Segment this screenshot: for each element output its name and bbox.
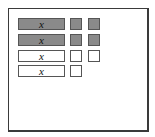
x-tile-plain: x bbox=[18, 65, 65, 77]
x-tile-shaded: x bbox=[18, 34, 65, 46]
unit-tile-shaded bbox=[88, 18, 100, 30]
x-tile-plain: x bbox=[18, 50, 65, 62]
unit-tile-shaded bbox=[70, 18, 82, 30]
x-tile-label: x bbox=[39, 51, 44, 62]
x-tile-label: x bbox=[39, 35, 44, 46]
unit-tile-plain bbox=[88, 50, 100, 62]
x-tile-label: x bbox=[39, 66, 44, 77]
unit-tile-shaded bbox=[88, 34, 100, 46]
unit-tile-plain bbox=[70, 50, 82, 62]
unit-tile-shaded bbox=[70, 34, 82, 46]
unit-tile-plain bbox=[70, 65, 82, 77]
x-tile-shaded: x bbox=[18, 18, 65, 30]
x-tile-label: x bbox=[39, 19, 44, 30]
